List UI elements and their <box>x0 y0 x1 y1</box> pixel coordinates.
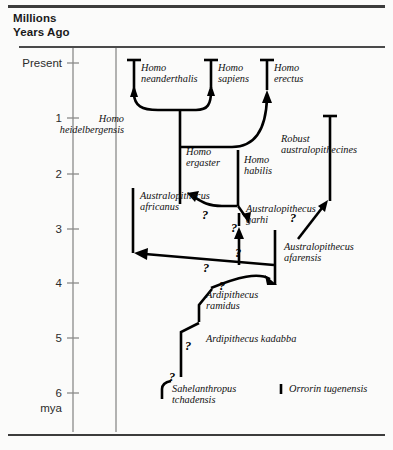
taxon-label: Ardipithecus kadabba <box>205 333 296 344</box>
lineage-australopithecus-afarensis: Australopithecus afarensis <box>134 230 354 288</box>
lineage-homo-neanderthalis: Homo neanderthalis <box>127 60 198 92</box>
taxon-label-line1: Homo <box>243 154 269 165</box>
axis-tick-3: 3 <box>56 223 79 235</box>
axis-tick-2: 2 <box>56 168 79 180</box>
axis-tick-label: Present <box>22 57 62 69</box>
time-axis: Present 1 2 3 4 5 <box>22 48 116 432</box>
question-mark-sahelanthropus-kadabba: ? <box>169 370 175 384</box>
taxon-label-line2: sapiens <box>218 73 249 84</box>
axis-tick-label: 5 <box>56 332 62 344</box>
lineage-homo-heidelbergensis: Homo heidelbergensis <box>60 84 215 146</box>
lineage-orrorin-tugenensis: Orrorin tugenensis <box>281 383 367 394</box>
axis-tick-label: 3 <box>56 223 62 235</box>
branch-to-erectus <box>180 98 267 147</box>
axis-tick-label: 1 <box>56 112 62 124</box>
branch-afarensis-to-africanus <box>145 254 274 265</box>
taxon-label-line2: afarensis <box>284 252 321 263</box>
taxon-label-line1: Australopithecus <box>245 203 316 214</box>
lineage-ardipithecus-ramidus: Ardipithecus ramidus <box>199 289 258 322</box>
arrowhead-to-neanderthalis <box>130 85 138 97</box>
lineage-ardipithecus-kadabba: Ardipithecus kadabba <box>181 323 296 377</box>
taxon-label-line2: erectus <box>274 73 303 84</box>
branch-to-neanderthalis <box>134 93 180 110</box>
question-mark-kadabba-ramidus: ? <box>185 339 191 353</box>
taxon-label-line1: Australopithecus <box>283 241 354 252</box>
question-mark-garhi-ancestry: ? <box>235 246 241 260</box>
question-mark-afarensis-robust: ? <box>290 211 296 225</box>
question-mark-ramidus-afarensis: ? <box>219 279 225 293</box>
taxon-label-line2: habilis <box>244 165 272 176</box>
taxon-label-line1: Australopithecus <box>139 190 210 201</box>
arrowhead-to-erectus <box>262 90 272 103</box>
taxon-label-line1: Ardipithecus <box>205 289 258 300</box>
axis-tick-4: 4 <box>56 277 79 289</box>
taxon-label-line1: Robust <box>280 133 311 144</box>
lineage-homo-erectus: Homo erectus <box>260 60 303 90</box>
question-mark-afarensis-africanus: ? <box>203 261 209 275</box>
taxon-label-line2: garhi <box>246 214 268 225</box>
axis-tick-label: 2 <box>56 168 62 180</box>
taxon-label-line1: Homo <box>185 146 211 157</box>
taxon-label-line2: tchadensis <box>172 394 215 405</box>
hominid-evolution-figure: Millions Years Ago Present 1 2 3 <box>0 0 393 450</box>
axis-tick-label: 4 <box>56 277 63 289</box>
taxon-label-line2: heidelbergensis <box>60 124 124 135</box>
lineage-australopithecus-africanus: Australopithecus africanus <box>133 188 210 253</box>
arrowhead-to-sapiens <box>207 84 215 96</box>
question-mark-habilis-garhi: ? <box>231 221 237 235</box>
taxon-label-line1: Homo <box>217 62 243 73</box>
taxon-label-line1: Sahelanthropus <box>172 383 236 394</box>
arrowhead-to-africanus <box>134 248 148 260</box>
taxon-label-line2: australopithecines <box>281 144 357 155</box>
axis-tick-label: 6 <box>56 387 62 399</box>
cladogram-canvas: Present 1 2 3 4 5 <box>0 0 393 450</box>
branch-to-sapiens <box>180 91 211 110</box>
lineage-sahelanthropus-tchadensis: Sahelanthropus tchadensis <box>162 381 236 405</box>
question-mark-ergaster-africanus: ? <box>202 208 208 222</box>
taxon-label-line2: ergaster <box>186 157 221 168</box>
axis-tick-6: 6 <box>56 387 79 399</box>
taxon-label-line2: neanderthalis <box>141 73 198 84</box>
lineage-homo-sapiens: Homo sapiens <box>204 60 249 88</box>
taxon-label-line1: Homo <box>273 62 299 73</box>
axis-tick-1: 1 <box>56 112 79 124</box>
taxon-label-line1: Homo <box>98 113 124 124</box>
taxon-label-line1: Homo <box>140 62 166 73</box>
axis-unit-label: mya <box>40 402 62 414</box>
axis-tick-5: 5 <box>56 332 79 344</box>
taxon-label-line2: ramidus <box>206 300 240 311</box>
lineage-homo-ergaster: Homo ergaster <box>180 90 272 204</box>
taxon-label-line2: africanus <box>140 201 179 212</box>
taxon-label: Orrorin tugenensis <box>289 383 367 394</box>
axis-tick-present: Present <box>22 57 79 69</box>
